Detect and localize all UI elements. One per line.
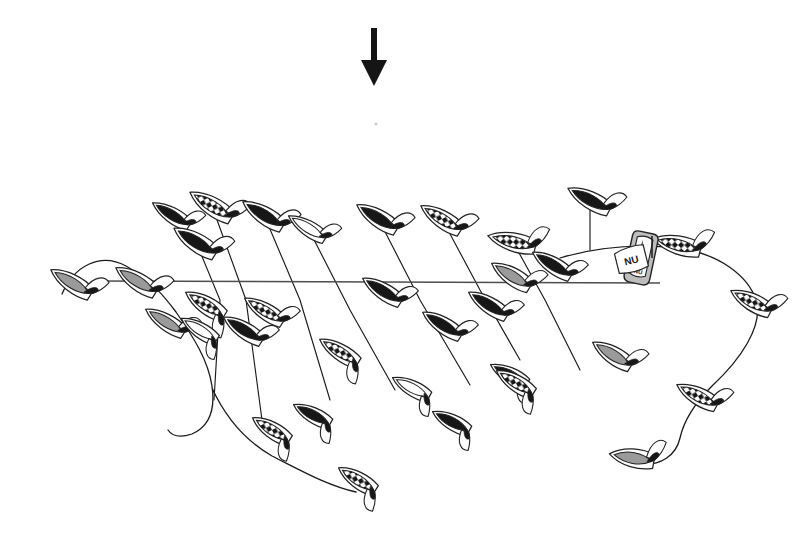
speck-dot <box>374 122 377 125</box>
figure-canvas: NUNU <box>0 0 809 542</box>
wind-arrow-shaft <box>371 28 377 62</box>
speck-mark <box>374 122 377 125</box>
sailing-diagram: NUNU <box>0 0 809 542</box>
